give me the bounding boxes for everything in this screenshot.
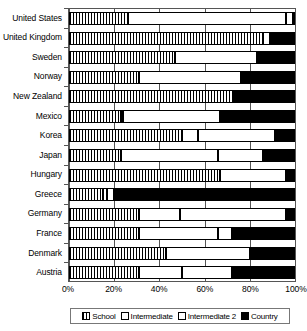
segment-school: [69, 188, 103, 201]
segment-school: [69, 208, 139, 221]
y-axis-label: Japan: [0, 145, 66, 165]
y-axis-label: Denmark: [0, 243, 66, 263]
stacked-bar: [69, 247, 295, 260]
segment-intermediate: [175, 51, 256, 64]
bar-row: [69, 87, 295, 107]
segment-intermediate-2: [218, 227, 232, 240]
segment-country: [286, 208, 295, 221]
bar-row: [69, 9, 295, 29]
y-axis-label: Sweden: [0, 47, 66, 67]
segment-intermediate-2: [123, 110, 220, 123]
segment-intermediate-2: [286, 12, 293, 25]
y-axis-label: Austria: [0, 262, 66, 282]
segment-intermediate: [139, 71, 241, 84]
segment-school: [69, 129, 182, 142]
segment-intermediate: [128, 12, 286, 25]
segment-intermediate: [121, 149, 218, 162]
segment-country: [250, 247, 295, 260]
segment-school: [69, 247, 166, 260]
stacked-bar: [69, 266, 295, 279]
legend-item[interactable]: Intermediate 2: [178, 312, 236, 321]
segment-intermediate: [220, 169, 286, 182]
x-axis-labels: 0%20%40%60%80%100%: [0, 284, 307, 298]
y-axis-tick: [64, 165, 68, 166]
y-axis-tick: [64, 223, 68, 224]
x-axis-tick-label: 80%: [242, 284, 259, 294]
y-axis-tick: [64, 184, 68, 185]
segment-school: [69, 71, 139, 84]
segment-school: [69, 110, 121, 123]
legend-swatch-icon: [178, 312, 186, 320]
y-axis-label: Mexico: [0, 106, 66, 126]
segment-school: [69, 169, 220, 182]
segment-country: [234, 90, 295, 103]
segment-school: [69, 149, 121, 162]
legend-swatch-icon: [82, 312, 90, 320]
legend-label: Country: [251, 312, 278, 321]
y-axis-tick: [64, 106, 68, 107]
bar-row: [69, 185, 295, 205]
y-axis-label: New Zealand: [0, 86, 66, 106]
y-axis-label: Norway: [0, 67, 66, 87]
legend-swatch-icon: [121, 312, 129, 320]
y-axis-label: United Kingdom: [0, 28, 66, 48]
y-axis-tick: [64, 204, 68, 205]
y-axis-label: United States: [0, 8, 66, 28]
segment-country: [275, 129, 295, 142]
stacked-bar: [69, 129, 295, 142]
bar-row: [69, 68, 295, 88]
y-axis-tick: [64, 86, 68, 87]
stacked-bar: [69, 188, 295, 201]
bar-row: [69, 244, 295, 264]
segment-intermediate: [263, 32, 270, 45]
stacked-bar: [69, 149, 295, 162]
y-axis-tick: [64, 47, 68, 48]
segment-school: [69, 90, 234, 103]
segment-school: [69, 51, 175, 64]
bar-row: [69, 126, 295, 146]
x-axis-tick-label: 40%: [151, 284, 168, 294]
stacked-bar: [69, 32, 295, 45]
segment-school: [69, 227, 139, 240]
legend-item[interactable]: School: [82, 312, 115, 321]
bar-row: [69, 29, 295, 49]
plot-area: [68, 8, 296, 282]
segment-country: [270, 32, 295, 45]
segment-country: [232, 227, 295, 240]
bar-row: [69, 263, 295, 283]
bar-row: [69, 48, 295, 68]
y-axis-label: Greece: [0, 184, 66, 204]
segment-intermediate: [139, 266, 182, 279]
x-axis-tick-label: 100%: [285, 284, 306, 294]
segment-country: [114, 188, 295, 201]
bar-row: [69, 107, 295, 127]
legend-item[interactable]: Intermediate: [121, 312, 173, 321]
stacked-bar: [69, 110, 295, 123]
bar-row: [69, 205, 295, 225]
gridline-100: [295, 9, 296, 281]
y-axis-tick: [64, 8, 68, 9]
y-axis-tick: [64, 67, 68, 68]
y-axis-label: Germany: [0, 204, 66, 224]
segment-school: [69, 12, 128, 25]
stacked-bar: [69, 51, 295, 64]
segment-intermediate: [182, 129, 198, 142]
segment-country: [293, 12, 295, 25]
y-axis-tick: [64, 145, 68, 146]
stacked-bar: [69, 12, 295, 25]
segment-intermediate-2: [182, 266, 232, 279]
segment-country: [241, 71, 295, 84]
legend-label: School: [92, 312, 115, 321]
segment-country: [220, 110, 295, 123]
legend-swatch-icon: [241, 312, 249, 320]
segment-country: [257, 51, 295, 64]
stacked-bar: [69, 227, 295, 240]
segment-intermediate: [139, 227, 218, 240]
legend-item[interactable]: Country: [241, 312, 278, 321]
segment-intermediate: [166, 247, 250, 260]
bar-row: [69, 146, 295, 166]
bar-row: [69, 224, 295, 244]
stacked-bar: [69, 71, 295, 84]
stacked-bar: [69, 90, 295, 103]
y-axis-tick: [64, 243, 68, 244]
